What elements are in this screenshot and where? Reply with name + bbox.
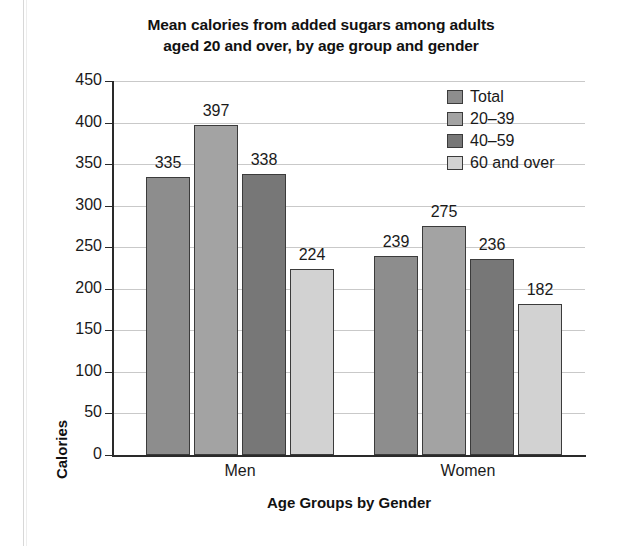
chart-title-line-1: Mean calories from added sugars among ad…: [86, 14, 556, 35]
bar: [146, 177, 190, 455]
legend-item-label: 40–59: [470, 132, 515, 150]
chart-title-line-2: aged 20 and over, by age group and gende…: [86, 35, 556, 56]
y-axis-title: Calories: [53, 395, 70, 505]
bar: [422, 226, 466, 455]
bar-chart-figure: Mean calories from added sugars among ad…: [0, 0, 622, 546]
legend-swatch-icon: [447, 90, 463, 104]
bar-value-label: 335: [138, 154, 198, 172]
bar: [242, 174, 286, 455]
bar: [374, 256, 418, 455]
bar-value-label: 182: [510, 281, 570, 299]
y-axis-tick-label: 150: [46, 320, 102, 338]
bar-value-label: 239: [366, 233, 426, 251]
legend-item: 20–39: [447, 108, 555, 130]
y-axis-tick-label: 400: [46, 113, 102, 131]
bar-value-label: 275: [414, 203, 474, 221]
bar: [290, 269, 334, 455]
bar-value-label: 397: [186, 102, 246, 120]
chart-title: Mean calories from added sugars among ad…: [86, 14, 556, 56]
legend-swatch-icon: [447, 112, 463, 126]
x-axis-group-label: Women: [344, 462, 592, 480]
x-axis-line: [112, 455, 586, 457]
y-axis-tick-label: 450: [46, 71, 102, 89]
bar-value-label: 224: [282, 246, 342, 264]
legend-item-label: 20–39: [470, 110, 515, 128]
bar: [518, 304, 562, 455]
legend-item-label: Total: [470, 88, 504, 106]
bar: [470, 259, 514, 455]
legend-swatch-icon: [447, 134, 463, 148]
legend-swatch-icon: [447, 156, 463, 170]
y-axis-line: [112, 81, 114, 457]
y-axis-tick-label: 100: [46, 362, 102, 380]
bar: [194, 125, 238, 455]
x-axis-title: Age Groups by Gender: [112, 494, 586, 511]
legend-item: Total: [447, 86, 555, 108]
x-axis-group-label: Men: [116, 462, 364, 480]
legend-item-label: 60 and over: [470, 154, 555, 172]
legend-item: 60 and over: [447, 152, 555, 174]
legend-item: 40–59: [447, 130, 555, 152]
y-axis-title-wrapper: Calories: [30, 195, 90, 315]
gridline: [112, 81, 585, 82]
bar-value-label: 338: [234, 151, 294, 169]
legend: Total20–3940–5960 and over: [447, 86, 555, 174]
y-axis-tick-label: 350: [46, 154, 102, 172]
bar-value-label: 236: [462, 236, 522, 254]
